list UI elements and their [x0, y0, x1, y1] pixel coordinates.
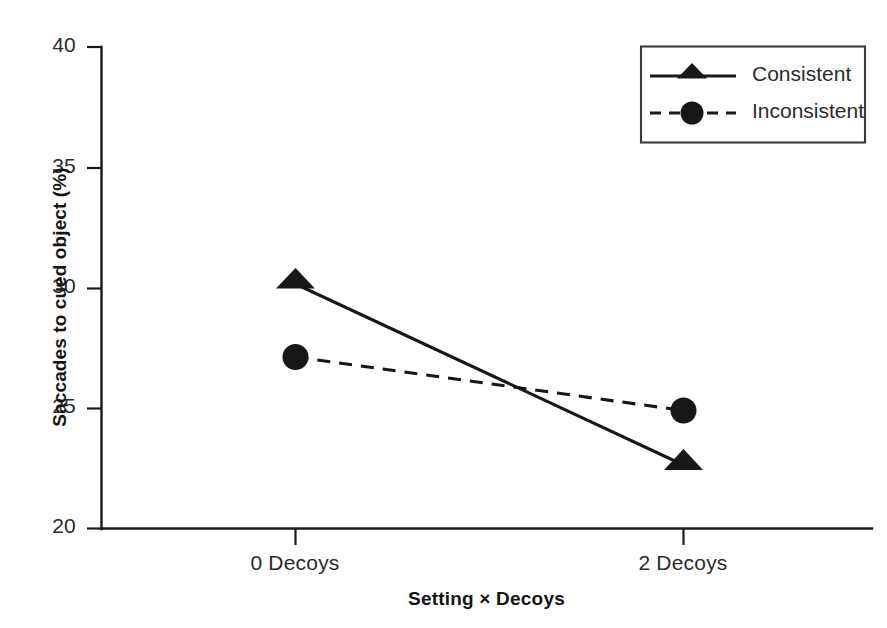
x-axis-title: Setting × Decoys: [101, 588, 872, 610]
y-tick-label-40: 40: [20, 33, 76, 57]
legend-label-inconsistent: Inconsistent: [752, 99, 864, 123]
data-point-consistent-0-decoys: [276, 268, 315, 289]
legend-label-consistent: Consistent: [752, 62, 851, 86]
legend-circle-marker: [681, 102, 704, 125]
series-line-inconsistent: [296, 357, 684, 411]
x-tick-label-2-decoys: 2 Decoys: [593, 551, 773, 575]
chart-figure: 40 35 30 25 20 0 Decoys 2 Decoys Saccade…: [0, 0, 887, 628]
data-point-inconsistent-2-decoys: [671, 398, 697, 424]
y-axis-title: Saccades to cued object (%): [49, 132, 71, 462]
y-tick-label-20: 20: [20, 514, 76, 538]
chart-canvas: [0, 0, 887, 628]
x-tick-label-0-decoys: 0 Decoys: [205, 551, 385, 575]
series-line-consistent: [296, 284, 684, 465]
legend-box: [641, 47, 865, 143]
data-point-inconsistent-0-decoys: [283, 344, 309, 370]
